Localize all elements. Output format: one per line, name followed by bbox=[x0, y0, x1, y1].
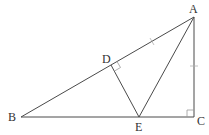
triangle-diagram: A B C D E bbox=[0, 0, 209, 135]
segment-ae bbox=[139, 17, 194, 117]
label-a: A bbox=[189, 2, 198, 16]
label-c: C bbox=[197, 114, 205, 128]
label-e: E bbox=[135, 120, 142, 134]
label-b: B bbox=[8, 110, 16, 124]
segment-ab bbox=[21, 17, 194, 117]
right-angle-mark-c bbox=[187, 110, 194, 117]
segment-de bbox=[111, 65, 139, 117]
equal-tick-ad bbox=[150, 38, 154, 45]
label-d: D bbox=[102, 52, 111, 66]
